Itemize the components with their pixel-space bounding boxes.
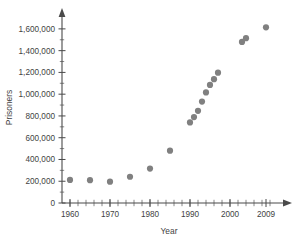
data-points (67, 24, 269, 185)
y-axis-tick-label: 1,600,000 (19, 25, 56, 34)
y-axis-tick-label: 200,000 (25, 177, 55, 186)
data-point (243, 35, 249, 41)
data-point (87, 177, 93, 183)
y-axis-tick-label: 0 (50, 199, 55, 208)
data-point (187, 119, 193, 125)
y-axis-tick-label: 1,000,000 (19, 90, 56, 99)
y-axis-tick-label: 400,000 (25, 155, 55, 164)
data-point (127, 174, 133, 180)
x-axis-tick-label: 2000 (221, 210, 240, 219)
x-axis-title: Year (161, 226, 178, 236)
x-axis-arrowhead (283, 200, 292, 207)
data-point (211, 76, 217, 82)
x-axis-tick-label: 1970 (101, 210, 120, 219)
x-axis-tick-label: 1990 (181, 210, 200, 219)
x-axis-tick-label: 1980 (141, 210, 160, 219)
chart-canvas: 0200,000400,000600,000800,0001,000,0001,… (0, 0, 299, 238)
x-axis-tick-label: 1960 (61, 210, 80, 219)
y-axis-title: Prisoners (4, 90, 14, 125)
data-point (107, 179, 113, 185)
y-axis-tick-label: 800,000 (25, 112, 55, 121)
data-point (215, 70, 221, 76)
axis-lines (59, 8, 292, 206)
data-point (263, 24, 269, 30)
y-axis-tick-labels: 0200,000400,000600,000800,0001,000,0001,… (19, 25, 56, 208)
data-point (67, 177, 73, 183)
data-point (167, 148, 173, 154)
y-axis-tick-label: 1,400,000 (19, 47, 56, 56)
data-point (199, 98, 205, 104)
y-axis-tick-label: 1,200,000 (19, 68, 56, 77)
data-point (207, 82, 213, 88)
data-point (203, 89, 209, 95)
data-point (191, 114, 197, 120)
x-axis-tick-labels: 196019701980199020002009 (61, 210, 276, 219)
x-axis-tick-label: 2009 (257, 210, 276, 219)
y-axis-tick-label: 600,000 (25, 134, 55, 143)
scatter-chart: 0200,000400,000600,000800,0001,000,0001,… (0, 0, 299, 238)
y-axis-arrowhead (59, 8, 66, 17)
data-point (195, 108, 201, 114)
data-point (147, 166, 153, 172)
